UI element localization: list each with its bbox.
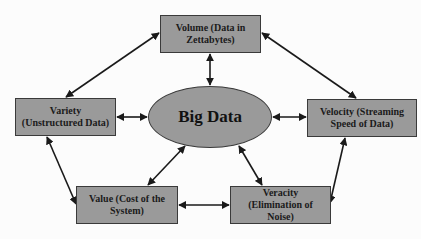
edge-volume-variety <box>66 33 159 97</box>
node-value: Value (Cost of the System) <box>76 186 178 224</box>
center-node-label: Big Data <box>178 107 242 127</box>
edge-variety-value <box>47 137 76 204</box>
node-veracity-label: Veracity (Elimination of Noise) <box>235 187 326 223</box>
edge-bigdata-value <box>148 146 185 185</box>
edge-bigdata-veracity <box>239 146 262 185</box>
node-volume-label: Volume (Data in Zettabytes) <box>165 22 256 46</box>
node-variety: Variety (Unstructured Data) <box>15 98 116 136</box>
edge-volume-velocity <box>262 33 356 98</box>
node-volume: Volume (Data in Zettabytes) <box>160 15 261 53</box>
node-variety-label: Variety (Unstructured Data) <box>20 105 111 129</box>
node-velocity: Velocity (Streaming Speed of Data) <box>307 99 417 137</box>
node-value-label: Value (Cost of the System) <box>81 193 173 217</box>
node-veracity: Veracity (Elimination of Noise) <box>230 186 331 224</box>
edge-veracity-velocity <box>330 138 345 203</box>
node-velocity-label: Velocity (Streaming Speed of Data) <box>312 106 412 130</box>
center-node-big-data: Big Data <box>148 86 272 148</box>
